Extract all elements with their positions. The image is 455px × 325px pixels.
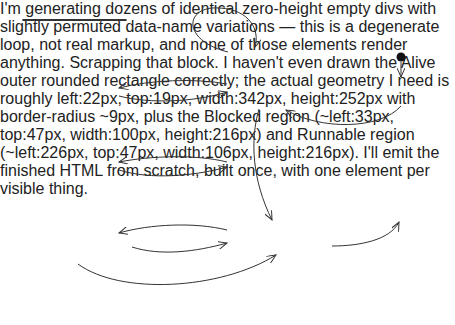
alive-composite-state xyxy=(22,19,128,124)
alive-composite-state-border xyxy=(22,19,127,21)
